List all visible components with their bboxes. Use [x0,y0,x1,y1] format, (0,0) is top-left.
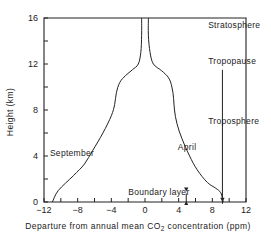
y-tick-label: 0 [33,197,38,207]
x-tick-label: 4 [176,205,181,215]
annotation-troposphere: Troposphere [208,116,259,126]
annotation-april: April [178,142,197,152]
annotation-tropopause: Tropopause [208,56,256,66]
y-tick-label: 8 [33,105,38,115]
annotation-boundary-layer: Boundary layer [128,187,189,197]
co2-height-profile-chart: −12−8−404812 0481216 StratosphereTropopa… [0,0,271,240]
x-tick-label: 0 [142,205,147,215]
y-tick-label: 4 [33,151,38,161]
x-tick-label: −8 [73,205,83,215]
arrowhead-down-icon [220,198,224,202]
x-axis-ticks: −12−8−404812 [36,198,251,215]
x-axis-title: Departure from annual mean CO2 concentra… [25,221,250,232]
x-axis-title-rest: concentration (ppm) [165,221,251,231]
annotation-stratosphere: Stratosphere [208,20,260,30]
y-tick-label: 16 [28,13,38,23]
x-axis-title-main: Departure from annual mean CO [25,221,160,231]
y-axis-ticks: 0481216 [28,13,48,207]
x-tick-label: 8 [210,205,215,215]
x-tick-label: 12 [241,205,251,215]
curve-september [52,18,141,202]
y-axis-title: Height (km) [5,88,15,136]
x-tick-label: −12 [36,205,51,215]
y-tick-label: 12 [28,59,38,69]
x-tick-label: −4 [106,205,116,215]
data-curves [52,18,223,202]
curve-april [148,18,223,202]
annotations: StratosphereTropopauseTroposphereSeptemb… [50,20,261,197]
annotation-september: September [50,148,94,158]
annotation-arrows [184,70,225,205]
